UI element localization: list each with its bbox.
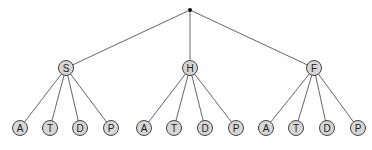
- tree-node-f-a: A: [259, 121, 274, 136]
- node-label: S: [63, 63, 70, 74]
- tree-node-h-p: P: [229, 121, 244, 136]
- edge-f-to-f-a: [266, 68, 314, 128]
- edge-h-to-h-a: [144, 68, 190, 128]
- node-label: T: [171, 123, 177, 134]
- tree-node-s-p: P: [104, 121, 119, 136]
- tree-node-s-a: A: [13, 121, 28, 136]
- node-label: A: [263, 123, 270, 134]
- node-label: P: [233, 123, 240, 134]
- tree-node-h: H: [183, 61, 198, 76]
- edge-h-to-h-d: [190, 68, 205, 128]
- node-label: A: [17, 123, 24, 134]
- tree-node-h-a: A: [137, 121, 152, 136]
- edge-f-to-f-t: [296, 68, 314, 128]
- tree-node-s-d: D: [73, 121, 88, 136]
- tree-node-h-d: D: [198, 121, 213, 136]
- node-label: P: [108, 123, 115, 134]
- edge-root-to-s: [66, 10, 190, 68]
- node-label: T: [293, 123, 299, 134]
- tree-node-f-d: D: [320, 121, 335, 136]
- root-node-dot: [188, 8, 192, 12]
- tree-node-f-t: T: [289, 121, 304, 136]
- tree-node-h-t: T: [167, 121, 182, 136]
- tree-canvas: SHFATDPATDPATDP: [0, 0, 372, 150]
- nodes-layer: SHFATDPATDPATDP: [13, 61, 366, 136]
- node-label: F: [311, 63, 317, 74]
- node-label: D: [323, 123, 330, 134]
- tree-diagram: SHFATDPATDPATDP: [0, 0, 372, 150]
- node-label: T: [47, 123, 53, 134]
- node-label: D: [201, 123, 208, 134]
- edge-root-to-f: [190, 10, 314, 68]
- edge-h-to-h-p: [190, 68, 236, 128]
- node-label: A: [141, 123, 148, 134]
- tree-node-f-p: P: [351, 121, 366, 136]
- edge-h-to-h-t: [174, 68, 190, 128]
- tree-node-f: F: [307, 61, 322, 76]
- tree-node-s-t: T: [43, 121, 58, 136]
- edge-s-to-s-t: [50, 68, 66, 128]
- tree-node-s: S: [59, 61, 74, 76]
- edge-s-to-s-a: [20, 68, 66, 128]
- node-label: H: [186, 63, 193, 74]
- node-label: D: [76, 123, 83, 134]
- node-label: P: [355, 123, 362, 134]
